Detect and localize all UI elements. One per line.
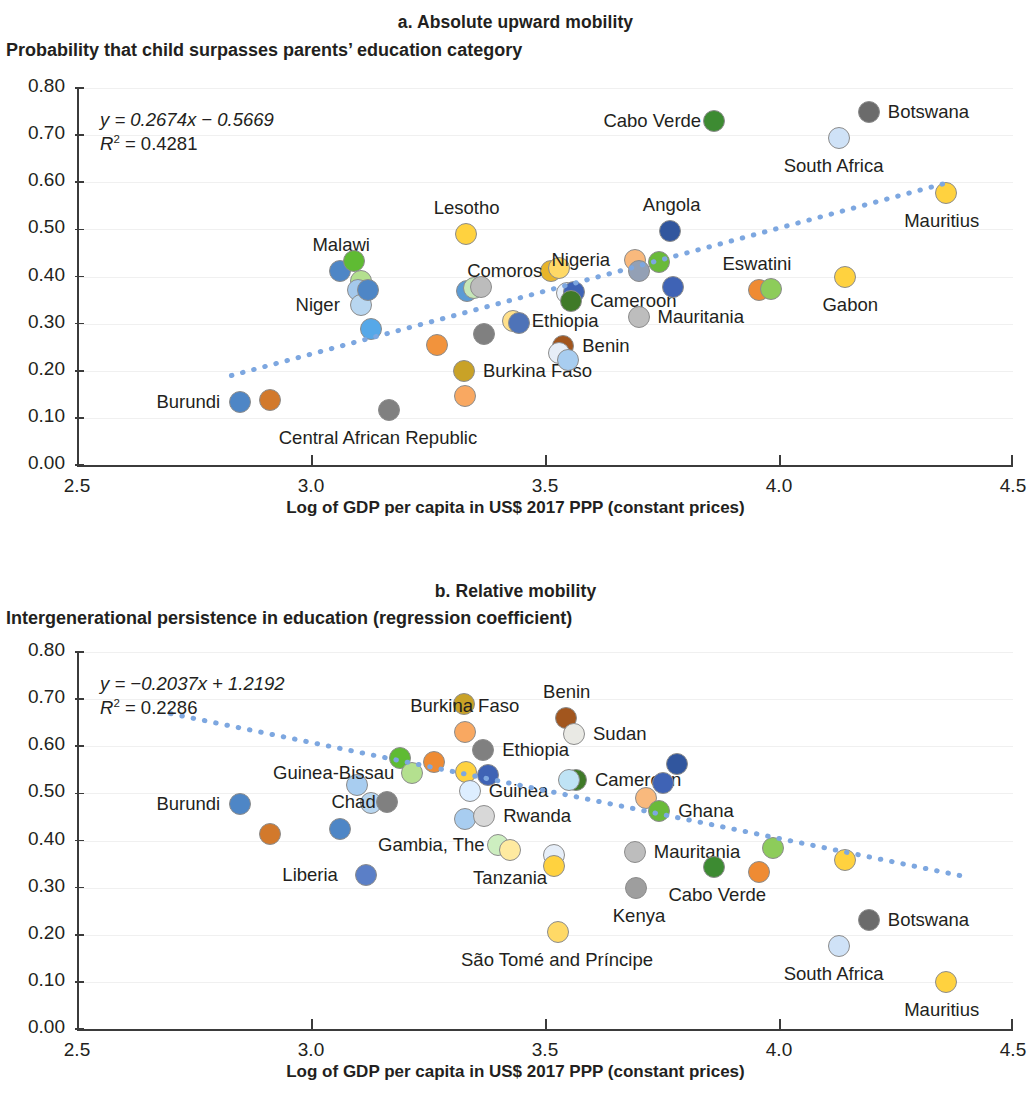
y-axis-tick [75,981,84,983]
data-point[interactable] [426,334,448,356]
data-point-south-africa[interactable] [828,127,850,149]
data-point-rwanda[interactable] [473,805,495,827]
data-point-lesotho[interactable] [455,223,477,245]
x-axis-tick [311,455,313,466]
gridline [77,935,1013,936]
y-axis-tick-label: 0.10 [3,405,65,427]
point-label: Burundi [156,391,220,413]
y-axis-tick [75,370,84,372]
data-point-tanzania[interactable] [499,839,521,861]
data-point-chad[interactable] [376,791,398,813]
data-point[interactable] [473,323,495,345]
x-axis-tick-label: 3.0 [276,475,346,497]
data-point[interactable] [662,276,684,298]
y-axis-tick-label: 0.00 [3,1016,65,1038]
data-point-sudan[interactable] [563,723,585,745]
panel-b-r2-value: = 0.2286 [120,698,198,719]
y-axis-tick [75,229,84,231]
data-point-south-africa[interactable] [828,935,850,957]
data-point[interactable] [508,312,530,334]
point-label: Liberia [282,864,338,886]
figure-root: a. Absolute upward mobility Probability … [0,0,1031,1095]
point-label: Benin [543,681,590,703]
data-point[interactable] [259,389,281,411]
y-axis-tick-label: 0.60 [3,169,65,191]
point-label: Rwanda [503,805,571,827]
point-label: Central African Republic [279,427,477,449]
point-label: Ethiopia [502,739,569,761]
data-point[interactable] [329,818,351,840]
y-axis-tick [75,181,84,183]
y-axis-tick [75,323,84,325]
data-point-guinea[interactable] [459,780,481,802]
y-axis-tick [75,793,84,795]
data-point[interactable] [454,385,476,407]
data-point[interactable] [760,278,782,300]
data-point-gabon[interactable] [834,266,856,288]
data-point-cabo-verde[interactable] [703,110,725,132]
data-point[interactable] [360,318,382,340]
data-point-liberia[interactable] [355,864,377,886]
gridline [77,229,1013,230]
data-point[interactable] [477,764,499,786]
data-point-burkina-faso[interactable] [454,721,476,743]
point-label: São Tomé and Príncipe [461,949,653,971]
data-point-mauritania[interactable] [628,306,650,328]
data-point-central-african-republic[interactable] [378,399,400,421]
data-point-mauritania[interactable] [624,841,646,863]
data-point-kenya[interactable] [625,877,647,899]
data-point[interactable] [762,837,784,859]
data-point-cameroon[interactable] [560,290,582,312]
data-point[interactable] [628,260,650,282]
data-point[interactable] [343,250,365,272]
x-axis-tick [545,1019,547,1030]
data-point[interactable] [666,753,688,775]
panel-b-x-axis-title: Log of GDP per capita in US$ 2017 PPP (c… [0,1062,1031,1082]
y-axis-tick-label: 0.70 [3,122,65,144]
data-point-s-o-tom-and-pr-ncipe[interactable] [547,921,569,943]
data-point-cabo-verde[interactable] [703,856,725,878]
x-axis-tick-label: 2.5 [42,1039,112,1061]
data-point-botswana[interactable] [858,101,880,123]
y-axis-tick [75,934,84,936]
point-label: Comoros [467,260,542,282]
x-axis-tick [311,1019,313,1030]
x-axis-tick [779,1019,781,1030]
data-point[interactable] [259,823,281,845]
y-axis-tick-label: 0.00 [3,452,65,474]
panel-b-y-axis-title: Intergenerational persistence in educati… [6,608,572,629]
point-label: Guinea-Bissau [273,762,394,784]
data-point-ghana[interactable] [648,800,670,822]
data-point-mauritius[interactable] [935,971,957,993]
y-axis-tick-label: 0.30 [3,875,65,897]
data-point[interactable] [423,751,445,773]
point-label: Benin [582,335,629,357]
data-point-burkina-faso[interactable] [453,360,475,382]
data-point-ethiopia[interactable] [472,739,494,761]
data-point[interactable] [648,251,670,273]
data-point-guinea-bissau[interactable] [401,762,423,784]
panel-a-r2-value: = 0.4281 [120,134,198,155]
data-point-mauritius[interactable] [935,182,957,204]
data-point-angola[interactable] [659,220,681,242]
data-point[interactable] [834,849,856,871]
x-axis-tick-label: 2.5 [42,475,112,497]
point-label: Botswana [888,101,969,123]
data-point[interactable] [543,855,565,877]
data-point[interactable] [357,279,379,301]
data-point-botswana[interactable] [858,909,880,931]
gridline [77,88,1013,89]
point-label: Ethiopia [532,310,599,332]
point-label: Eswatini [723,253,792,275]
y-axis-tick-label: 0.40 [3,264,65,286]
x-axis-tick [545,455,547,466]
data-point[interactable] [652,772,674,794]
point-label: Mauritania [654,841,740,863]
y-axis-tick [75,417,84,419]
data-point-burundi[interactable] [229,793,251,815]
point-label: Mauritius [904,210,979,232]
data-point-burundi[interactable] [229,391,251,413]
point-label: Mauritius [904,999,979,1021]
data-point[interactable] [748,861,770,883]
point-label: Botswana [888,909,969,931]
